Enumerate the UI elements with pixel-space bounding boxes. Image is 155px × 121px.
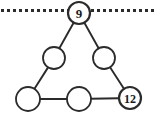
circle-node-bottom-right[interactable]: 12 — [119, 87, 141, 109]
circle-node-label-apex: 9 — [76, 6, 83, 21]
triangle-edge-right-upper-to-bottom-right — [110, 67, 125, 89]
dotted-line-dot — [127, 9, 130, 12]
dotted-line-dot — [7, 9, 10, 12]
dotted-line-dot — [61, 9, 64, 12]
dotted-line-dot — [97, 9, 100, 12]
dotted-line-dot — [151, 9, 154, 12]
circle-node-outline-right-upper — [93, 47, 115, 69]
dotted-line-dot — [25, 9, 28, 12]
dotted-line-dot — [55, 9, 58, 12]
triangle-edge-apex-to-right-upper — [84, 22, 99, 49]
dotted-line-dot — [133, 9, 136, 12]
circle-node-apex[interactable]: 9 — [68, 2, 90, 24]
dotted-line-dot — [109, 9, 112, 12]
dotted-line-dot — [49, 9, 52, 12]
circle-node-outline-bottom-left — [16, 87, 40, 111]
dotted-line-dot — [19, 9, 22, 12]
dotted-line-dot — [1, 9, 4, 12]
triangle-edge-bottom-middle-to-bottom-right — [90, 98, 119, 99]
dotted-line-dot — [139, 9, 142, 12]
circle-node-right-upper[interactable] — [93, 47, 115, 69]
triangle-nodes: 912 — [16, 2, 141, 111]
triangle-edge-apex-to-left-upper — [59, 22, 74, 49]
dotted-line-dot — [13, 9, 16, 12]
triangle-edge-left-upper-to-bottom-left — [34, 67, 48, 89]
dotted-line-dot — [31, 9, 34, 12]
dotted-line-dot — [121, 9, 124, 12]
circle-node-outline-bottom-middle — [67, 87, 91, 111]
circle-node-bottom-middle[interactable] — [67, 87, 91, 111]
triangle-diagram-svg: 912 — [0, 0, 155, 121]
circle-node-bottom-left[interactable] — [16, 87, 40, 111]
circle-node-outline-left-upper — [43, 47, 65, 69]
magic-triangle-figure: 912 — [0, 0, 155, 121]
dotted-line-dot — [43, 9, 46, 12]
dotted-line-dot — [37, 9, 40, 12]
dotted-line-dot — [115, 9, 118, 12]
circle-node-label-bottom-right: 12 — [124, 92, 136, 106]
dotted-line-dot — [145, 9, 148, 12]
dotted-line-dot — [103, 9, 106, 12]
circle-node-left-upper[interactable] — [43, 47, 65, 69]
dotted-line-dot — [91, 9, 94, 12]
